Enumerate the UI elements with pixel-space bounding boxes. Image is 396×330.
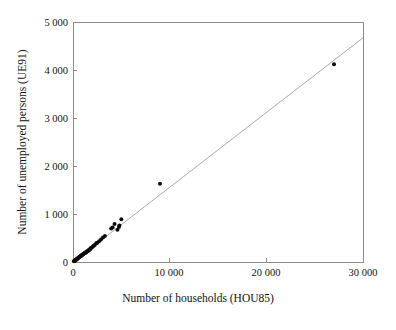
y-axis-title: Number of unemployed persons (UE91) [16, 49, 29, 234]
y-tick-label-1000: 1 000 [44, 209, 68, 220]
x-axis-ticks [73, 258, 363, 262]
plot-canvas: 5 000 4 000 3 000 2 000 1 000 0 0 10 000… [0, 0, 396, 330]
y-tick-labels: 5 000 4 000 3 000 2 000 1 000 0 [44, 17, 68, 268]
x-tick-labels: 0 10 000 20 000 30 000 [70, 267, 377, 278]
x-tick-label-10000: 10 000 [155, 267, 184, 278]
y-tick-label-4000: 4 000 [44, 65, 68, 76]
y-tick-label-5000: 5 000 [44, 17, 68, 28]
data-point [113, 222, 117, 226]
y-tick-label-3000: 3 000 [44, 113, 68, 124]
y-axis-ticks [73, 22, 77, 262]
data-point [115, 228, 119, 232]
x-tick-label-0: 0 [70, 267, 75, 278]
data-point [158, 182, 162, 186]
x-tick-label-20000: 20 000 [252, 267, 281, 278]
y-tick-label-0: 0 [63, 257, 68, 268]
scatter-plot-figure: 5 000 4 000 3 000 2 000 1 000 0 0 10 000… [0, 0, 396, 330]
data-point [72, 259, 76, 263]
plot-frame [73, 22, 363, 262]
data-point [332, 62, 336, 66]
data-point [109, 226, 113, 230]
data-point-group [72, 62, 336, 263]
x-axis-title: Number of households (HOU85) [122, 292, 274, 305]
y-tick-label-2000: 2 000 [44, 161, 68, 172]
data-point [119, 217, 123, 221]
x-tick-label-30000: 30 000 [349, 267, 378, 278]
